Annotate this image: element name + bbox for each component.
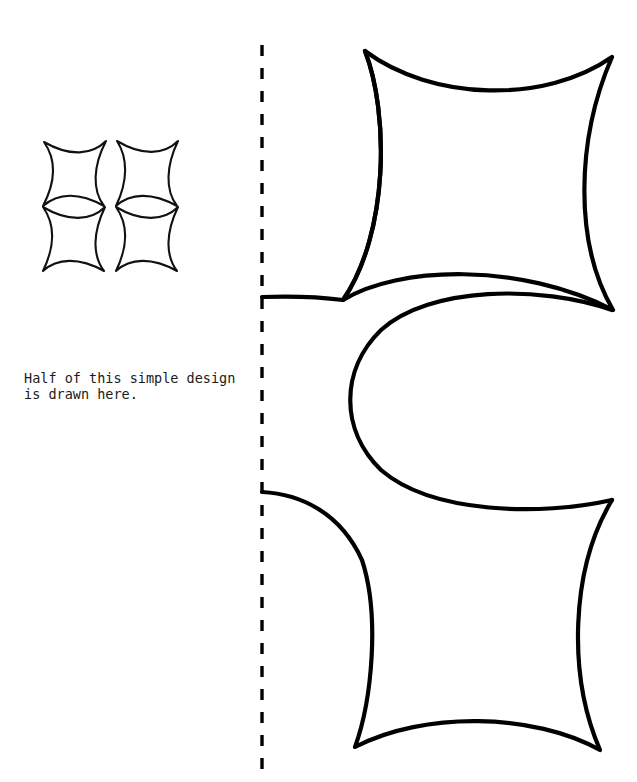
thumbnail-tile-bottom-right — [116, 207, 178, 271]
top-shape-fold-arm — [262, 51, 381, 300]
thumbnail-tile-bottom-left — [43, 207, 105, 271]
worksheet-page: Half of this simple design is drawn here… — [0, 0, 637, 782]
complete-design-thumbnail — [43, 141, 178, 271]
thumbnail-tile-top-right — [116, 141, 178, 206]
thumbnail-tile-top-left — [43, 141, 106, 206]
instruction-text: Half of this simple design is drawn here… — [24, 370, 254, 402]
middle-c-shape — [350, 294, 612, 510]
top-concave-square — [343, 51, 613, 310]
bottom-concave-square — [262, 492, 612, 750]
half-design-large — [262, 51, 613, 750]
